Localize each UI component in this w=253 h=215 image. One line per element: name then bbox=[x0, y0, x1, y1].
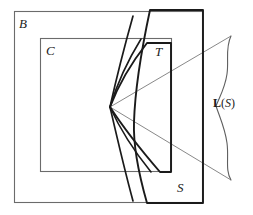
label-t: T bbox=[155, 45, 162, 58]
fan-curve-lower-outer bbox=[110, 107, 133, 201]
label-b: B bbox=[19, 17, 27, 30]
label-ls-operator: L bbox=[213, 96, 221, 110]
fan-curve-upper-outer bbox=[110, 16, 133, 107]
label-s: S bbox=[177, 181, 184, 194]
figure-container: B C T S L(S) bbox=[0, 0, 253, 215]
label-ls: L(S) bbox=[213, 97, 235, 109]
label-ls-close-paren: ) bbox=[231, 96, 235, 110]
rect-c bbox=[41, 39, 172, 172]
rect-b bbox=[15, 12, 203, 203]
label-c: C bbox=[46, 44, 55, 57]
